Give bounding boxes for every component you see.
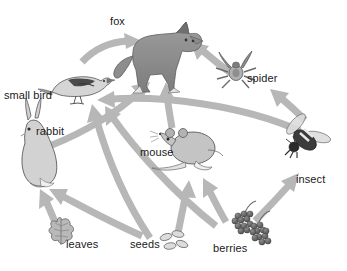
food-web-diagram: fox small bird spider rabbit mouse insec… — [0, 0, 347, 271]
label-insect: insect — [296, 174, 325, 185]
label-seeds: seeds — [130, 239, 160, 250]
label-fox: fox — [110, 16, 125, 27]
label-rabbit: rabbit — [36, 126, 64, 137]
label-mouse: mouse — [140, 147, 174, 158]
arrow-insect-to-small-bird — [97, 91, 300, 131]
label-berries: berries — [213, 243, 247, 254]
organism-insect — [284, 111, 332, 158]
organism-fox — [114, 22, 203, 93]
label-spider: spider — [247, 73, 278, 84]
label-leaves: leaves — [66, 239, 98, 250]
arrow-berries-to-insect — [255, 173, 299, 221]
label-small-bird: small bird — [4, 90, 52, 101]
organism-seeds — [159, 230, 188, 250]
